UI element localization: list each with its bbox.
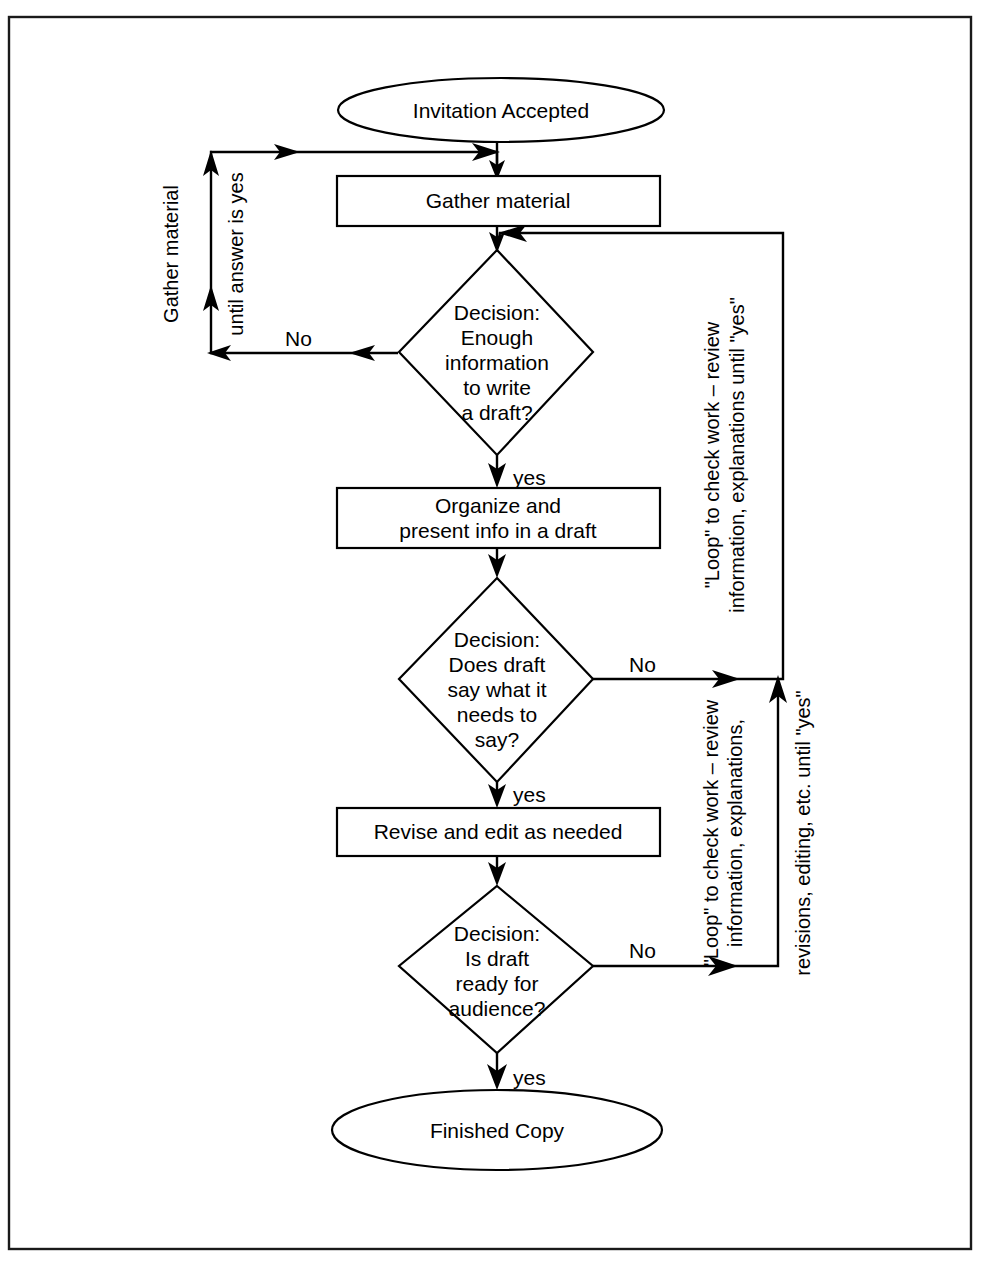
decision1-line-4: a draft? xyxy=(461,401,532,424)
node-decision-ready-for-audience[interactable]: Decision: Is draft ready for audience? xyxy=(399,886,593,1053)
side-label-loop2-line-1: "Loop" to check work – review xyxy=(700,699,722,966)
end-label: Finished Copy xyxy=(430,1119,565,1142)
organize-present-line-0: Organize and xyxy=(435,494,561,517)
decision2-line-2: say what it xyxy=(447,678,546,701)
edge-label-yes-1: yes xyxy=(513,466,546,489)
side-label-gather-material: Gather material xyxy=(160,185,182,323)
gather-material-label: Gather material xyxy=(426,189,571,212)
side-label-loop1-line-2: information, explanations until "yes" xyxy=(726,297,748,612)
decision1-line-2: information xyxy=(445,351,549,374)
decision2-line-0: Decision: xyxy=(454,628,540,651)
decision3-line-2: ready for xyxy=(456,972,539,995)
decision2-line-1: Does draft xyxy=(449,653,546,676)
side-label-loop2-line-3: revisions, editing, etc. until "yes" xyxy=(792,690,814,975)
side-label-until-answer-is-yes: until answer is yes xyxy=(225,172,247,335)
edge-label-no-2: No xyxy=(629,653,656,676)
edge-label-no-1: No xyxy=(285,327,312,350)
start-label: Invitation Accepted xyxy=(413,99,589,122)
revise-edit-label: Revise and edit as needed xyxy=(374,820,623,843)
edge-label-no-3: No xyxy=(629,939,656,962)
side-label-loop1-line-1: "Loop" to check work – review xyxy=(701,321,723,588)
node-decision-does-draft-say[interactable]: Decision: Does draft say what it needs t… xyxy=(399,578,593,782)
side-label-loop2-line-2: information, explanations, xyxy=(724,719,746,947)
decision1-line-1: Enough xyxy=(461,326,533,349)
decision2-line-3: needs to xyxy=(457,703,538,726)
decision3-line-3: audience? xyxy=(449,997,546,1020)
organize-present-line-1: present info in a draft xyxy=(399,519,596,542)
node-end[interactable]: Finished Copy xyxy=(332,1090,662,1170)
decision2-line-4: say? xyxy=(475,728,519,751)
decision1-line-3: to write xyxy=(463,376,531,399)
node-gather-material[interactable]: Gather material xyxy=(337,176,660,226)
decision1-line-0: Decision: xyxy=(454,301,540,324)
decision3-line-0: Decision: xyxy=(454,922,540,945)
node-decision-enough-information[interactable]: Decision: Enough information to write a … xyxy=(399,250,593,455)
flowchart-canvas: Invitation Accepted Gather material Deci… xyxy=(0,0,981,1269)
edge-label-yes-3: yes xyxy=(513,1066,546,1089)
node-organize-present[interactable]: Organize and present info in a draft xyxy=(337,488,660,548)
node-revise-edit[interactable]: Revise and edit as needed xyxy=(337,808,660,856)
decision3-line-1: Is draft xyxy=(465,947,529,970)
edge-decision3-yes xyxy=(487,1053,507,1090)
edge-process3-to-decision3 xyxy=(488,856,506,886)
edge-decision1-yes xyxy=(488,455,506,488)
node-start[interactable]: Invitation Accepted xyxy=(338,78,664,142)
edge-label-yes-2: yes xyxy=(513,783,546,806)
edge-decision2-yes xyxy=(488,782,506,808)
edge-process2-to-decision2 xyxy=(488,548,506,578)
